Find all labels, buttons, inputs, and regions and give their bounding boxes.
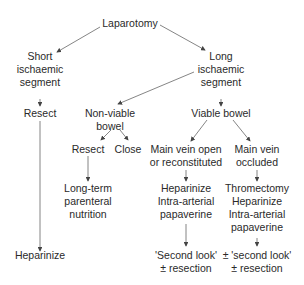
node-viable: Viable bowel [186, 107, 256, 120]
node-second-look-open: 'Second look' ± resection [151, 249, 221, 275]
node-long-segment: Long ischaemic segment [191, 50, 251, 89]
node-text: nutrition [60, 208, 116, 221]
node-text: parenteral [60, 195, 116, 208]
node-text: segment [10, 76, 70, 89]
node-close-nonviable: Close [112, 143, 144, 156]
node-text: ischaemic [10, 63, 70, 76]
node-text: Viable bowel [186, 107, 256, 120]
node-text: Laparotomy [98, 17, 162, 30]
node-text: Heparinize [12, 249, 68, 262]
node-text: ± 'second look' [222, 249, 292, 262]
node-vein-open: Main vein open or reconstituted [148, 143, 224, 169]
node-text: ± resection [222, 262, 292, 275]
node-text: ischaemic [191, 63, 251, 76]
edge-laparotomy-short [57, 27, 100, 52]
node-text: 'Second look' [151, 249, 221, 262]
node-text: occluded [227, 156, 287, 169]
node-text: Long-term [60, 182, 116, 195]
node-second-look-occluded: ± 'second look' ± resection [222, 249, 292, 275]
node-vein-occluded: Main vein occluded [227, 143, 287, 169]
node-text: ± resection [151, 262, 221, 275]
node-laparotomy: Laparotomy [98, 17, 162, 30]
node-short-segment: Short ischaemic segment [10, 50, 70, 89]
node-heparinize-short: Heparinize [12, 249, 68, 262]
node-text: Short [10, 50, 70, 63]
node-resect-short: Resect [20, 107, 60, 120]
node-text: Non-viable [80, 107, 140, 120]
node-non-viable: Non-viable bowel [80, 107, 140, 133]
edge-laparotomy-long [160, 25, 205, 50]
node-text: or reconstituted [148, 156, 224, 169]
node-text: papaverine [151, 208, 221, 221]
edge-long-nonviable [118, 72, 194, 104]
node-treat-open: Heparinize Intra-arterial papaverine [151, 182, 221, 221]
node-text: Main vein open [148, 143, 224, 156]
edge-viable-veinoccluded [233, 120, 250, 141]
node-text: Thromectomy [222, 182, 292, 195]
node-text: Heparinize [151, 182, 221, 195]
node-resect-nonviable: Resect [70, 143, 106, 156]
node-treat-occluded: Thromectomy Heparinize Intra-arterial pa… [222, 182, 292, 234]
edge-viable-veinopen [191, 120, 207, 141]
node-text: Long [191, 50, 251, 63]
node-text: papaverine [222, 221, 292, 234]
node-text: bowel [80, 120, 140, 133]
node-text: Intra-arterial [222, 208, 292, 221]
node-long-term: Long-term parenteral nutrition [60, 182, 116, 221]
node-text: Resect [70, 143, 106, 156]
node-text: Main vein [227, 143, 287, 156]
node-text: Close [112, 143, 144, 156]
node-text: Resect [20, 107, 60, 120]
node-text: segment [191, 76, 251, 89]
node-text: Heparinize [222, 195, 292, 208]
node-text: Intra-arterial [151, 195, 221, 208]
